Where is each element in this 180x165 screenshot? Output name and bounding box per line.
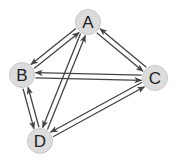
edge-b-to-c bbox=[35, 78, 141, 80]
edge-c-to-d bbox=[51, 82, 142, 132]
node-label: C bbox=[149, 69, 161, 88]
edge-b-to-d bbox=[23, 89, 34, 129]
edges bbox=[23, 28, 146, 136]
edge-a-to-c bbox=[97, 33, 143, 72]
node-b: B bbox=[10, 63, 35, 88]
node-label: A bbox=[82, 13, 94, 32]
edge-b-to-a bbox=[34, 32, 79, 68]
directed-graph: ABCD bbox=[0, 0, 180, 165]
edge-d-to-c bbox=[53, 87, 144, 137]
node-c: C bbox=[143, 66, 168, 91]
node-label: D bbox=[34, 132, 46, 151]
edge-c-to-b bbox=[36, 73, 142, 75]
node-a: A bbox=[76, 10, 101, 35]
edge-d-to-b bbox=[28, 87, 39, 127]
edge-a-to-d bbox=[43, 34, 81, 128]
edge-c-to-a bbox=[100, 29, 146, 68]
nodes: ABCD bbox=[10, 10, 168, 154]
edge-d-to-a bbox=[47, 35, 85, 129]
edge-a-to-b bbox=[31, 28, 76, 64]
node-label: B bbox=[16, 66, 27, 85]
node-d: D bbox=[28, 129, 53, 154]
